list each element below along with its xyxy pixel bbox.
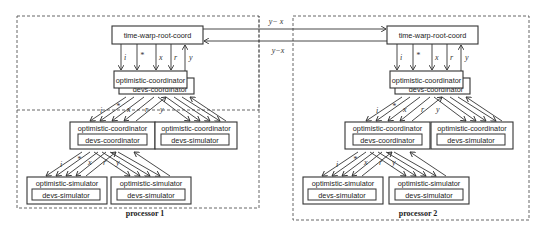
p1-fan-bottom [46,152,170,176]
p2-fan-label-x: x [402,105,407,114]
p2-leaf-left-outer-label: optimistic-simulator [312,179,375,188]
p1-label-r: r [174,53,178,62]
p1-fan-label-star: * [116,102,120,111]
processor-2-label: processor 2 [399,209,438,218]
p2-fan-top [366,97,502,121]
p1-leaf-left-outer-label: optimistic-simulator [36,179,99,188]
p1-fan-label-y: y [159,105,164,114]
p2-fan-label-y: y [435,105,440,114]
p1-leaf-label-y: y [115,158,120,167]
p2-label-i: i [400,53,402,62]
p1-label-star: * [140,51,144,60]
p2-label-y: y [464,53,469,62]
p2-label-r: r [450,53,454,62]
diagram-canvas: time-warp-root-coord i * x r y devs-coor… [0,0,547,235]
p1-root-label: time-warp-root-coord [124,31,192,40]
p2-mid-right-outer-label: optimistic-coordinator [437,124,507,133]
p1-fan-label-r: r [145,105,149,114]
link-top-label: y− x [268,17,284,26]
p2-mid-left-outer-label: optimistic-coordinator [353,124,423,133]
p2-mid-left-inner-label: devs-coordinator [360,136,415,145]
p1-leaf-right-outer-label: optimistic-simulator [120,179,183,188]
p1-label-y: y [188,53,193,62]
p1-leaf-label-star: * [77,155,81,164]
p2-leaf-right-inner-label: devs-simulator [405,191,453,200]
p2-leaf-label-star: * [353,155,357,164]
p2-leaf-label-x: x [363,158,368,167]
p2-label-star: * [416,51,420,60]
p2-fan-label-i: i [376,106,378,115]
p2-fan-label-star: * [392,102,396,111]
p2-leaf-left-inner-label: devs-simulator [318,191,366,200]
p2-leaf-label-i: i [336,160,338,169]
p1-label-x: x [158,53,163,62]
p1-mid-right-outer-label: optimistic-coordinator [161,124,231,133]
processor-1-label: processor 1 [126,209,165,218]
processor-1: time-warp-root-coord i * x r y devs-coor… [17,16,259,218]
p1-leaf-right-inner-label: devs-simulator [127,191,175,200]
p1-leaf-label-x: x [87,158,92,167]
p1-mid-left-outer-label: optimistic-coordinator [78,124,148,133]
link-bottom-label: y−x [271,46,285,55]
p2-label-x: x [434,53,439,62]
p2-leaf-right-outer-label: optimistic-simulator [398,179,461,188]
p1-fan-label-i: i [100,106,102,115]
p2-leaf-label-y: y [391,158,396,167]
p2-mid-right-inner-label: devs-simulator [447,136,495,145]
p2-root-label: time-warp-root-coord [399,31,467,40]
p1-leaf-left-inner-label: devs-simulator [42,191,90,200]
inter-processor-links: y− x y−x [203,17,387,55]
p2-fan-bottom [322,152,446,176]
p1-mid-left-inner-label: devs-coordinator [85,136,140,145]
p2-top-outer-label: optimistic-coordinator [392,76,462,85]
p2-fan-label-r: r [421,105,425,114]
p1-label-i: i [124,53,126,62]
p1-leaf-label-i: i [60,160,62,169]
p1-top-outer-label: optimistic-coordinator [116,76,186,85]
p1-fan-top [90,97,226,121]
p1-mid-right-inner-label: devs-simulator [171,136,219,145]
processor-2: time-warp-root-coord i * x r y devs-coor… [293,16,529,220]
p1-fan-label-x: x [126,105,131,114]
